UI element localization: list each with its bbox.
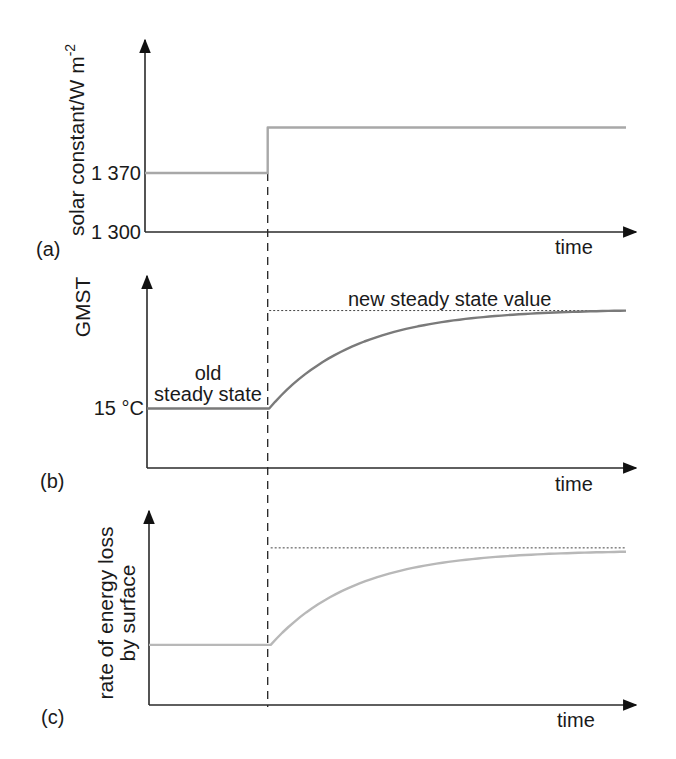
panel-a-y-axis-label: solar constant/W m-2 [62, 44, 88, 236]
panel-c-y-axis-label-line-1: rate of energy loss [94, 527, 117, 700]
figure: 1 3001 370 solar constant/W m-2 time (a)… [0, 0, 676, 759]
panel-a-y-tick-label: 1 300 [91, 221, 141, 243]
panel-c-y-axis-label-line-2: by surface [116, 565, 139, 662]
panel-b-y-tick-label: 15 °C [94, 397, 144, 419]
panel-c-energy-loss: rate of energy loss by surface time (c) [41, 511, 636, 731]
panel-b-gmst: 15 °C GMST old steady state new steady s… [40, 276, 636, 495]
panel-b-label: (b) [40, 470, 64, 492]
panel-a-solar-constant: 1 3001 370 solar constant/W m-2 time (a) [36, 40, 636, 260]
panel-c-label: (c) [41, 706, 64, 728]
panel-c-x-axis-label: time [557, 709, 595, 731]
panel-a-y-tick-label: 1 370 [91, 162, 141, 184]
panel-b-x-axis-label: time [555, 473, 593, 495]
panel-a-x-axis-label: time [555, 236, 593, 258]
panel-b-y-axis-label: GMST [71, 277, 94, 338]
old-steady-state-label-line-2: steady state [154, 383, 262, 405]
new-steady-state-label: new steady state value [348, 288, 551, 310]
panel-c-energy-loss-curve [149, 552, 626, 645]
panel-a-solar-constant-line [145, 128, 626, 174]
old-steady-state-label-line-1: old [195, 362, 222, 384]
panel-a-label: (a) [36, 238, 60, 260]
